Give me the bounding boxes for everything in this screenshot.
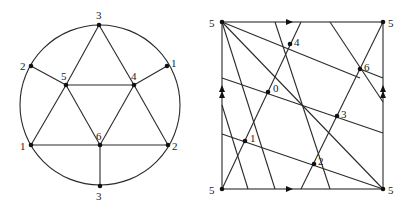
corner-vertex-dot: [220, 20, 225, 25]
graph-edge: [134, 85, 168, 145]
disk-graph-figure: 321541623: [20, 9, 180, 202]
vertex-dot: [312, 162, 317, 167]
triangulation-edge: [330, 22, 383, 102]
vertex-dot: [29, 64, 34, 69]
vertex-dot: [358, 67, 363, 72]
vertex-label: 4: [294, 36, 300, 48]
vertex-label: 4: [131, 70, 137, 82]
vertex-label: 3: [341, 108, 347, 120]
vertex-dot: [166, 143, 171, 148]
corner-vertex-dot: [220, 187, 225, 192]
vertex-label: 6: [96, 130, 102, 142]
vertex-label: 1: [250, 132, 256, 144]
vertex-label: 3: [96, 190, 102, 202]
arrow-up-icon: [380, 91, 386, 98]
graph-edge: [31, 85, 66, 145]
corner-label: 5: [209, 17, 215, 29]
arrow-up-icon: [380, 85, 386, 92]
vertex-dot: [132, 83, 137, 88]
vertex-label: 3: [96, 9, 102, 21]
triangulation-edge: [222, 22, 275, 189]
arrow-right-icon: [286, 19, 293, 25]
vertex-label: 5: [61, 70, 67, 82]
vertex-dot: [29, 143, 34, 148]
torus-square-figure: 5555460312: [209, 17, 394, 196]
vertex-label: 1: [171, 57, 177, 69]
vertex-dot: [64, 83, 69, 88]
diagram-canvas: 321541623 5555460312: [0, 0, 410, 208]
vertex-dot: [335, 114, 340, 119]
vertex-dot: [266, 90, 271, 95]
vertex-dot: [243, 139, 248, 144]
corner-vertex-dot: [381, 20, 386, 25]
vertex-dot: [288, 42, 293, 47]
arrow-up-icon: [219, 91, 225, 98]
corner-vertex-dot: [381, 187, 386, 192]
vertex-dot: [165, 64, 170, 69]
graph-edge: [134, 66, 167, 85]
graph-edge: [66, 85, 100, 145]
graph-edge: [100, 85, 134, 145]
corner-label: 5: [388, 17, 394, 29]
vertex-dot: [97, 23, 102, 28]
graph-edge: [99, 25, 134, 85]
graph-edge: [66, 25, 99, 85]
vertex-label: 0: [273, 82, 279, 94]
triangulation-edge: [222, 22, 301, 189]
arrow-up-icon: [219, 85, 225, 92]
vertex-dot: [98, 143, 103, 148]
vertex-label: 2: [318, 155, 324, 167]
corner-label: 5: [209, 184, 215, 196]
vertex-dot: [98, 184, 103, 189]
vertex-label: 6: [364, 61, 370, 73]
vertex-label: 2: [20, 60, 26, 72]
corner-label: 5: [388, 184, 394, 196]
vertex-label: 2: [172, 140, 178, 152]
vertex-label: 1: [20, 140, 26, 152]
triangulation-edge: [222, 105, 248, 189]
arrow-right-icon: [286, 186, 293, 192]
